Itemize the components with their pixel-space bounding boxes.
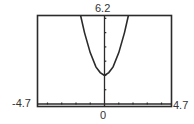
axes <box>38 16 172 107</box>
ymax-label: 6.2 <box>95 3 110 14</box>
xmax-label: 4.7 <box>173 100 188 111</box>
xmin-label: -4.7 <box>12 98 31 109</box>
origin-label: 0 <box>100 110 106 121</box>
